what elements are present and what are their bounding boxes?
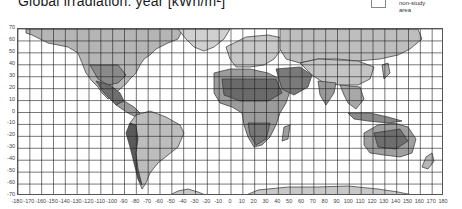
latitude-label: 70 (1, 24, 15, 30)
latitude-label: -50 (1, 167, 15, 173)
asia-central (300, 59, 374, 85)
latitude-label: 30 (1, 72, 15, 78)
latitude-label: -20 (1, 131, 15, 137)
indonesia (348, 113, 402, 123)
world-map (17, 28, 443, 195)
latitude-label: 20 (1, 84, 15, 90)
greenland (178, 29, 230, 51)
latitude-label: -70 (1, 191, 15, 197)
latitude-label: 10 (1, 96, 15, 102)
antarctica (168, 186, 418, 195)
latitude-label: -10 (1, 119, 15, 125)
latitude-label: 60 (1, 36, 15, 42)
latitude-label: 0 (1, 108, 15, 114)
madagascar (282, 125, 290, 141)
india (318, 81, 336, 105)
map-title: Global irradiation: year [kWh/m²] (18, 0, 225, 9)
legend-swatch-non-study (371, 0, 386, 8)
asia-north (280, 29, 422, 63)
latitude-label: -60 (1, 179, 15, 185)
europe (226, 35, 288, 67)
latitude-label: -40 (1, 155, 15, 161)
map-graphic (18, 29, 443, 195)
longitude-label: 180 (436, 198, 450, 204)
latitude-label: -30 (1, 143, 15, 149)
legend-label-non-study: non-study area (399, 0, 439, 14)
latitude-label: 50 (1, 48, 15, 54)
latitude-label: 40 (1, 60, 15, 66)
